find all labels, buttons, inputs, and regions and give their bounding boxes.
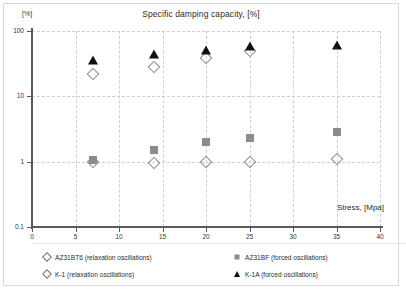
data-point-marker xyxy=(332,40,342,49)
data-point-marker xyxy=(147,156,160,169)
x-axis-tick-label: 0 xyxy=(22,233,42,240)
x-axis-tick xyxy=(206,228,207,232)
data-point-marker xyxy=(330,153,343,166)
data-point-marker xyxy=(202,138,210,146)
data-point-marker xyxy=(333,128,341,136)
y-axis-tick xyxy=(27,162,32,163)
legend-item-label: K-1A (forced oscillations) xyxy=(245,271,318,278)
data-point-marker xyxy=(147,61,160,74)
y-axis-tick-label: 0.1 xyxy=(2,223,24,230)
legend-marker-glyph xyxy=(234,271,240,277)
legend-marker-glyph xyxy=(42,252,52,262)
x-axis-tick xyxy=(76,228,77,232)
y-axis-line xyxy=(31,28,33,229)
legend-marker-icon xyxy=(232,269,242,279)
legend-item-label: AZ31BT6 (relaxation oscillations) xyxy=(55,254,152,261)
legend-marker-glyph xyxy=(235,255,240,260)
gridline-vertical xyxy=(250,31,251,227)
gridline-horizontal xyxy=(32,31,380,32)
data-point-marker xyxy=(201,45,211,54)
gridline-horizontal xyxy=(32,96,380,97)
plot-area xyxy=(32,31,380,227)
x-axis-tick-label: 25 xyxy=(240,233,260,240)
x-axis-tick xyxy=(250,228,251,232)
x-axis-tick-label: 10 xyxy=(109,233,129,240)
legend-item[interactable]: AZ31BF (forced oscillations) xyxy=(232,252,328,262)
legend-item-label: AZ31BF (forced oscillations) xyxy=(245,254,328,261)
data-point-marker xyxy=(150,146,158,154)
data-point-marker xyxy=(246,134,254,142)
x-axis-tick xyxy=(337,228,338,232)
data-point-marker xyxy=(243,155,256,168)
x-axis-tick xyxy=(380,228,381,232)
y-axis-tick xyxy=(27,96,32,97)
x-axis-line xyxy=(31,226,383,228)
data-point-marker xyxy=(200,156,213,169)
x-axis-tick-label: 5 xyxy=(66,233,86,240)
x-axis-tick-label: 20 xyxy=(196,233,216,240)
x-axis-title: Stress, [Mpa] xyxy=(337,203,384,212)
legend-marker-icon xyxy=(232,252,242,262)
y-axis-tick-label: 100 xyxy=(2,27,24,34)
data-point-marker xyxy=(149,49,159,58)
legend-marker-icon xyxy=(42,269,52,279)
legend-item-label: K-1 (relaxation oscillations) xyxy=(55,271,134,278)
x-axis-tick-label: 35 xyxy=(327,233,347,240)
chart-legend: AZ31BT6 (relaxation oscillations)AZ31BF … xyxy=(20,243,382,283)
y-axis-tick xyxy=(27,31,32,32)
gridline-vertical xyxy=(76,31,77,227)
x-axis-tick xyxy=(163,228,164,232)
gridline-vertical xyxy=(163,31,164,227)
x-axis-tick xyxy=(119,228,120,232)
legend-divider xyxy=(32,243,406,244)
y-axis-tick-label: 10 xyxy=(2,92,24,99)
data-point-marker xyxy=(89,156,97,164)
x-axis-tick xyxy=(32,228,33,232)
y-axis-unit-label: [%] xyxy=(22,10,32,17)
data-point-marker xyxy=(245,42,255,51)
data-point-marker xyxy=(88,55,98,64)
data-point-marker xyxy=(87,68,100,81)
x-axis-tick-label: 40 xyxy=(370,233,390,240)
x-axis-tick-label: 15 xyxy=(153,233,173,240)
gridline-vertical xyxy=(380,31,381,227)
chart-title: Specific damping capacity, [%] xyxy=(0,9,402,19)
gridline-vertical xyxy=(119,31,120,227)
legend-item[interactable]: K-1A (forced oscillations) xyxy=(232,269,318,279)
legend-item[interactable]: AZ31BT6 (relaxation oscillations) xyxy=(42,252,152,262)
x-axis-tick-label: 30 xyxy=(283,233,303,240)
legend-marker-glyph xyxy=(42,269,52,279)
legend-item[interactable]: K-1 (relaxation oscillations) xyxy=(42,269,134,279)
gridline-vertical xyxy=(293,31,294,227)
legend-marker-icon xyxy=(42,252,52,262)
y-axis-tick-label: 1 xyxy=(2,158,24,165)
x-axis-tick xyxy=(293,228,294,232)
